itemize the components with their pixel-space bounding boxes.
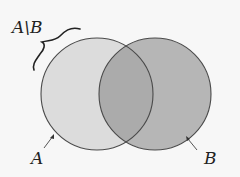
arrow-b — [188, 139, 197, 150]
label-a: A — [29, 148, 43, 168]
venn-diagram: A\B A B — [0, 0, 240, 177]
label-b: B — [203, 148, 217, 168]
label-a-minus-b: A\B — [10, 17, 43, 37]
